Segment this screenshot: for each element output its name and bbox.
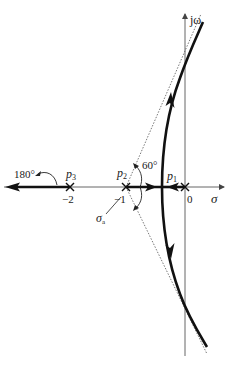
angle-label-60: 60° bbox=[142, 159, 157, 171]
tick-label-0: 0 bbox=[187, 193, 193, 205]
tick-label-neg2: −2 bbox=[62, 193, 74, 205]
arc-arrowhead-icon bbox=[35, 171, 41, 176]
asymptotes bbox=[126, 14, 207, 354]
centroid-label: σa bbox=[96, 211, 106, 226]
angle-arc-60-icon bbox=[136, 166, 142, 187]
angle-label-180: 180° bbox=[14, 168, 35, 180]
locus-branch-lower bbox=[162, 187, 207, 347]
locus-branch-p3 bbox=[5, 183, 70, 192]
root-locus-diagram: jω σ 0 −1 −2 p3 p2 p1 180° 60° σa bbox=[0, 0, 234, 366]
tick-label-neg1: −1 bbox=[114, 193, 126, 205]
pole-label-p1: p1 bbox=[166, 169, 177, 184]
locus-branch-upper bbox=[162, 22, 203, 187]
imag-axis-label: jω bbox=[189, 13, 201, 27]
pole-label-p2: p2 bbox=[116, 166, 127, 181]
pole-label-p3: p3 bbox=[65, 167, 76, 182]
angle-arc-neg60-icon bbox=[136, 187, 142, 208]
asymptote-lower bbox=[126, 187, 207, 354]
real-axis-label: σ bbox=[211, 191, 218, 206]
locus-branch-p2-real bbox=[126, 183, 162, 192]
angle-arc-180-icon bbox=[38, 172, 57, 185]
